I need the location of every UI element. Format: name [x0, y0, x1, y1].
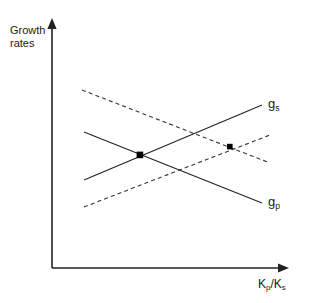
x-axis-label: Kp/Ks — [258, 277, 286, 291]
x-axis-label-sub-1: p — [266, 283, 270, 292]
x-axis-label-sub-2: s — [282, 283, 286, 292]
curve-label-gs-sub: s — [275, 103, 279, 113]
equilibrium-point-1 — [137, 152, 144, 159]
x-axis-label-base-2: K — [274, 277, 282, 291]
curve-label-gp-sub: p — [275, 201, 280, 211]
x-axis-label-base-1: K — [258, 277, 266, 291]
y-axis-label: Growth rates — [10, 24, 45, 50]
curve-gp-shifted-dashed — [82, 90, 270, 163]
y-axis-label-line-2: rates — [10, 37, 45, 50]
y-axis-label-line-1: Growth — [10, 24, 45, 37]
curve-gs-shifted-dashed — [84, 135, 270, 207]
plot-canvas — [0, 0, 321, 303]
curve-label-gs: gs — [268, 96, 280, 111]
growth-rates-figure: Growth rates Kp/Ks gs gp — [0, 0, 321, 303]
equilibrium-point-2 — [227, 144, 233, 150]
y-axis-arrowhead — [47, 18, 56, 29]
x-axis-arrowhead — [278, 263, 289, 272]
curve-label-gp: gp — [268, 194, 280, 209]
